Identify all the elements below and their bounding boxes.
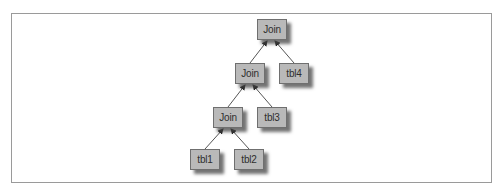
node-label: tbl4 bbox=[286, 68, 301, 79]
node-label: Join bbox=[241, 68, 259, 79]
node-label: tbl1 bbox=[197, 154, 212, 165]
node-label: tbl2 bbox=[241, 154, 256, 165]
edge-tbl1-to-join3 bbox=[205, 129, 223, 149]
edge-tbl4-to-join1 bbox=[275, 41, 294, 63]
node-join-bottom: Join bbox=[213, 107, 243, 128]
node-label: Join bbox=[219, 112, 237, 123]
node-tbl2: tbl2 bbox=[234, 149, 264, 170]
node-tbl4: tbl4 bbox=[279, 63, 309, 84]
edge-tbl3-to-join2 bbox=[253, 85, 272, 107]
node-label: tbl3 bbox=[264, 112, 279, 123]
node-join-root: Join bbox=[257, 19, 287, 40]
edge-join3-to-join2 bbox=[228, 85, 245, 107]
edge-join2-to-join1 bbox=[250, 41, 267, 63]
node-tbl3: tbl3 bbox=[257, 107, 287, 128]
node-join-middle: Join bbox=[235, 63, 265, 84]
edge-tbl2-to-join3 bbox=[231, 129, 249, 149]
node-tbl1: tbl1 bbox=[190, 149, 220, 170]
node-label: Join bbox=[263, 24, 281, 35]
